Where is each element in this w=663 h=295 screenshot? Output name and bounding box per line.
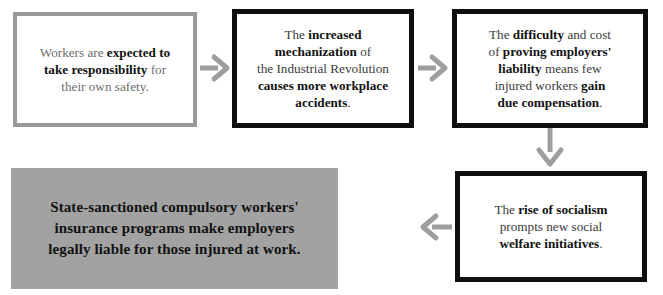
flowchart-node-2-text: The increasedmechanization ofthe Industr… — [251, 26, 395, 112]
flowchart-arrow-4-left — [414, 209, 454, 245]
flowchart-node-1-text: Workers are expected totake responsibili… — [34, 44, 176, 95]
flowchart-node-1: Workers are expected totake responsibili… — [13, 12, 197, 127]
flowchart-node-2: The increasedmechanization ofthe Industr… — [232, 9, 414, 128]
flowchart-arrow-2-right — [416, 50, 452, 86]
flowchart-node-4-text: The rise of socialismprompts new socialw… — [488, 201, 613, 252]
flowchart-arrow-3-down — [532, 126, 568, 170]
flowchart-node-4: The rise of socialismprompts new socialw… — [455, 171, 647, 282]
flowchart-arrow-1-right — [198, 50, 234, 86]
flowchart-node-3: The difficulty and costof proving employ… — [452, 9, 648, 128]
flowchart-node-5-text: State-sanctioned compulsory workers'insu… — [42, 197, 306, 261]
flowchart-node-3-text: The difficulty and costof proving employ… — [483, 26, 618, 112]
flowchart-canvas: Workers are expected totake responsibili… — [0, 0, 663, 295]
flowchart-node-5-conclusion: State-sanctioned compulsory workers'insu… — [11, 168, 338, 289]
